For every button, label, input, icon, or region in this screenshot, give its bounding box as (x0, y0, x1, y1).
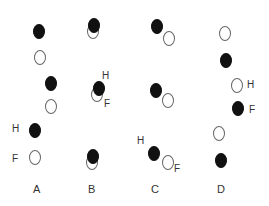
caption-c: C (151, 184, 159, 195)
filled-circle-b3 (87, 149, 99, 164)
label-f-c: F (174, 164, 180, 174)
label-h-b: H (102, 71, 109, 81)
open-circle-d1 (219, 26, 231, 41)
label-h-d: H (247, 80, 254, 90)
caption-b: B (88, 184, 95, 195)
open-circle-a2 (45, 99, 57, 114)
label-f-a: F (12, 154, 18, 164)
filled-circle-d1 (220, 53, 232, 68)
open-circle-c3-f (162, 155, 174, 170)
filled-circle-d2-f (232, 101, 244, 116)
filled-circle-c3-h (148, 146, 160, 161)
open-circle-a3-f (29, 150, 41, 165)
open-circle-c2 (162, 93, 174, 108)
label-f-d: F (249, 105, 255, 115)
filled-circle-c1 (151, 19, 163, 34)
label-h-a: H (12, 124, 19, 134)
filled-circle-a2 (45, 76, 57, 91)
label-h-c: H (137, 136, 144, 146)
filled-circle-a1 (33, 24, 45, 39)
open-circle-c1 (163, 31, 175, 46)
filled-circle-b1 (88, 18, 100, 33)
filled-circle-c2 (150, 83, 162, 98)
filled-circle-b2-h (93, 81, 105, 96)
label-f-b: F (104, 99, 110, 109)
filled-circle-d3 (215, 153, 227, 168)
open-circle-d2-h (231, 78, 243, 93)
filled-circle-a3-h (29, 123, 41, 138)
caption-a: A (33, 184, 40, 195)
open-circle-a1 (34, 50, 46, 65)
open-circle-d3 (213, 126, 225, 141)
caption-d: D (217, 184, 225, 195)
